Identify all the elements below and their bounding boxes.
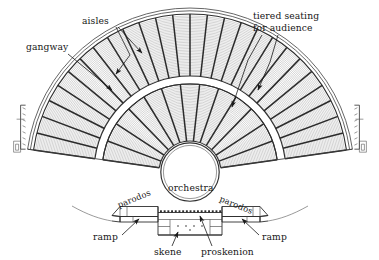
proskenion-column <box>197 210 199 212</box>
theatre-plan-figure: aisles tiered seating for audience gangw… <box>0 0 379 260</box>
proskenion-column <box>201 210 203 212</box>
label-aisles: aisles <box>82 15 109 26</box>
label-skene: skene <box>154 246 182 257</box>
proskenion-column <box>175 210 177 212</box>
label-orchestra: orchestra <box>168 182 214 193</box>
proskenion-column <box>160 210 162 212</box>
label-tiered-seating-line2: for audience <box>253 22 313 33</box>
proskenion-column <box>208 210 210 212</box>
label-proskenion: proskenion <box>201 246 254 257</box>
proskenion-column <box>186 210 188 212</box>
proskenion-column <box>167 210 169 212</box>
proskenion-colonnade <box>160 210 221 212</box>
proskenion-column <box>190 210 192 212</box>
proskenion-column <box>212 210 214 212</box>
label-ramp-left: ramp <box>93 231 118 242</box>
label-gangway: gangway <box>26 41 69 52</box>
label-tiered-seating-line1: tiered seating <box>253 10 319 21</box>
proskenion-column <box>204 210 206 212</box>
proskenion-column <box>216 210 218 212</box>
theatre-plan-svg: aisles tiered seating for audience gangw… <box>0 0 379 260</box>
proskenion-column <box>164 210 166 212</box>
label-parodos-right: parodos <box>218 194 254 216</box>
label-ramp-right: ramp <box>262 231 287 242</box>
proskenion-column <box>193 210 195 212</box>
proskenion-column <box>182 210 184 212</box>
proskenion-column <box>171 210 173 212</box>
proskenion-column <box>179 210 181 212</box>
proskenion-column <box>219 210 221 212</box>
